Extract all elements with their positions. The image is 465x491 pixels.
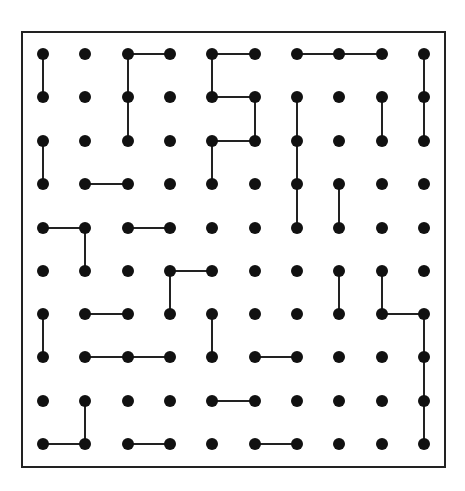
grid-dot: [249, 351, 261, 363]
grid-dot: [333, 438, 345, 450]
grid-dot: [376, 395, 388, 407]
grid-dot: [206, 395, 218, 407]
grid-dot: [206, 265, 218, 277]
grid-dot: [122, 178, 134, 190]
grid-dot: [37, 91, 49, 103]
grid-dot: [333, 135, 345, 147]
grid-dot: [206, 48, 218, 60]
grid-dot: [37, 178, 49, 190]
grid-dot: [122, 222, 134, 234]
grid-dot: [37, 265, 49, 277]
grid-dot: [122, 395, 134, 407]
grid-dot: [333, 351, 345, 363]
grid-dot: [37, 438, 49, 450]
grid-dot: [37, 48, 49, 60]
grid-dot: [79, 222, 91, 234]
grid-dot: [333, 222, 345, 234]
grid-dot: [249, 265, 261, 277]
grid-dot: [333, 178, 345, 190]
grid-dot: [376, 308, 388, 320]
grid-dot: [291, 438, 303, 450]
grid-dot: [418, 438, 430, 450]
grid-dot: [291, 222, 303, 234]
grid-dot: [122, 438, 134, 450]
grid-dot: [418, 178, 430, 190]
grid-dot: [79, 395, 91, 407]
grid-dot: [79, 308, 91, 320]
grid-dot: [376, 222, 388, 234]
grid-dot: [249, 308, 261, 320]
grid-dot: [79, 178, 91, 190]
grid-dot: [206, 135, 218, 147]
grid-dot: [37, 395, 49, 407]
grid-dot: [249, 178, 261, 190]
grid-dot: [249, 222, 261, 234]
grid-dot: [376, 91, 388, 103]
grid-dot: [418, 222, 430, 234]
grid-dot: [418, 48, 430, 60]
grid-dot: [206, 222, 218, 234]
grid-dot: [206, 351, 218, 363]
grid-dot: [79, 91, 91, 103]
grid-dot: [206, 178, 218, 190]
grid-dot: [418, 265, 430, 277]
grid-dot: [333, 265, 345, 277]
grid-dot: [206, 308, 218, 320]
grid-dot: [333, 91, 345, 103]
grid-dot: [249, 135, 261, 147]
grid-dot: [249, 395, 261, 407]
grid-dot: [291, 178, 303, 190]
grid-dot: [79, 48, 91, 60]
grid-dot: [376, 48, 388, 60]
grid-dot: [79, 351, 91, 363]
grid-dot: [122, 91, 134, 103]
grid-dot: [291, 395, 303, 407]
grid-dot: [164, 395, 176, 407]
grid-dot: [122, 308, 134, 320]
grid-dot: [206, 438, 218, 450]
grid-dot: [418, 91, 430, 103]
line-segments: [43, 54, 424, 444]
grid-dot: [333, 395, 345, 407]
grid-dot: [418, 395, 430, 407]
grid-dot: [249, 48, 261, 60]
grid-dot: [164, 48, 176, 60]
grid-dot: [164, 222, 176, 234]
grid-dot: [79, 135, 91, 147]
grid-dot: [249, 91, 261, 103]
grid-dot: [122, 48, 134, 60]
grid-dot: [291, 308, 303, 320]
grid-dot: [164, 308, 176, 320]
grid-dot: [291, 48, 303, 60]
grid-dot: [291, 265, 303, 277]
grid-dot: [291, 351, 303, 363]
grid-dot: [37, 135, 49, 147]
grid-dot: [333, 48, 345, 60]
grid-dot: [122, 265, 134, 277]
grid-dot: [291, 135, 303, 147]
grid-dot: [164, 265, 176, 277]
grid-dot: [376, 438, 388, 450]
grid-dot: [79, 265, 91, 277]
grid-dot: [376, 265, 388, 277]
grid-dot: [164, 178, 176, 190]
grid-dot: [122, 135, 134, 147]
grid-dot: [164, 135, 176, 147]
grid-dot: [164, 351, 176, 363]
grid-dot: [206, 91, 218, 103]
grid-dot: [37, 308, 49, 320]
grid-dot: [164, 91, 176, 103]
grid-dot: [79, 438, 91, 450]
grid-dot: [418, 135, 430, 147]
grid-dot: [376, 178, 388, 190]
dot-grid-board: [0, 0, 465, 491]
grid-dot: [418, 308, 430, 320]
grid-dot: [291, 91, 303, 103]
grid-dot: [418, 351, 430, 363]
grid-dot: [333, 308, 345, 320]
grid-dot: [122, 351, 134, 363]
grid-dot: [376, 135, 388, 147]
grid-dot: [376, 351, 388, 363]
grid-dot: [37, 351, 49, 363]
grid-dot: [164, 438, 176, 450]
